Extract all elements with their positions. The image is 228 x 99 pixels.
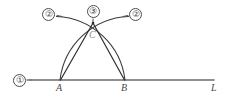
step-label-3-intersection: ③: [87, 5, 100, 18]
point-label-c: C: [89, 30, 96, 40]
point-label-a: A: [56, 83, 62, 93]
point-label-b: B: [121, 83, 127, 93]
intersection-point-c-dot: [92, 22, 95, 25]
step-label-1-line: ①: [13, 74, 26, 87]
line-label-l: L: [211, 83, 217, 93]
geometry-diagram: ① ② ③ ② C A B L: [0, 0, 228, 99]
step-label-2-arc-right: ②: [129, 8, 142, 21]
segment-cb: [93, 23, 125, 80]
step-label-2-arc-left: ②: [42, 8, 55, 21]
construction-drawing: [0, 0, 228, 99]
